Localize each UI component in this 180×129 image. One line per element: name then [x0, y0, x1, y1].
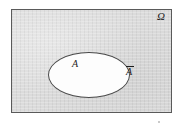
set-a-complement-label: A [126, 66, 132, 77]
omega-label: Ω [157, 11, 165, 22]
set-a-region [48, 52, 130, 98]
venn-diagram-figure: Ω A A [0, 0, 180, 129]
omega-universal-set-region [11, 9, 172, 113]
set-a-label: A [72, 59, 78, 69]
set-a-complement-overbar-text: A [126, 66, 132, 77]
scan-artifact-speck [158, 121, 160, 123]
